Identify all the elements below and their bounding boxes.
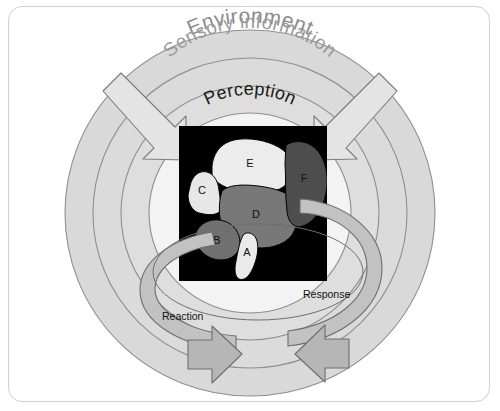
brain-region-a-label: A xyxy=(243,246,251,258)
brain-region-f-label: F xyxy=(301,172,308,184)
cycle-label-response: Response xyxy=(303,288,350,300)
brain-region-d-label: D xyxy=(252,208,260,220)
perception-action-cycle-diagram: Environment Sensory information Percepti… xyxy=(0,0,500,411)
figure-root: Environment Sensory information Percepti… xyxy=(0,0,500,411)
brain-region-e-label: E xyxy=(246,157,253,169)
brain-region-c-label: C xyxy=(198,184,206,196)
cycle-label-reaction: Reaction xyxy=(162,310,204,322)
